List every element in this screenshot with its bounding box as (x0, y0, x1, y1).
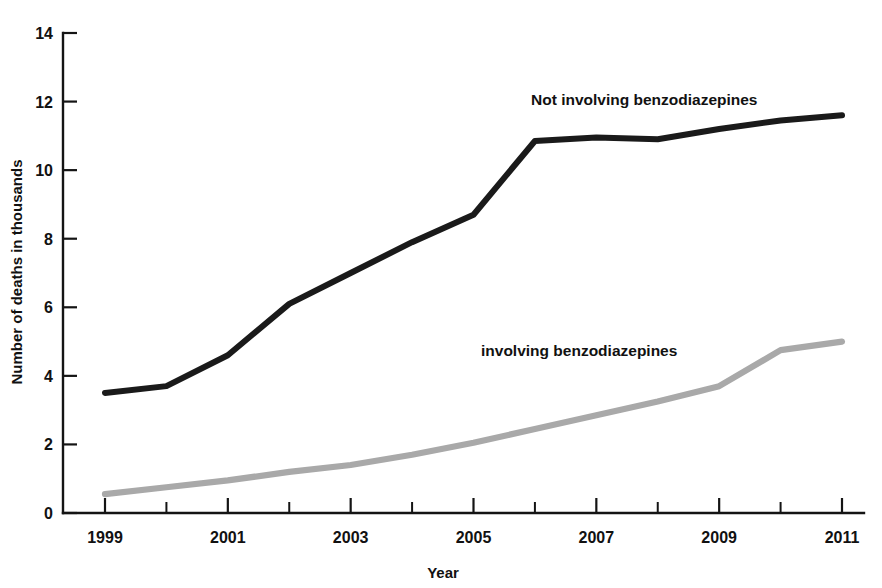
y-tick-label: 14 (35, 25, 53, 42)
x-tick-label: 2003 (333, 529, 369, 546)
series-line-not-involving-benzodiazepines (105, 115, 842, 393)
x-axis-title: Year (427, 564, 459, 581)
y-tick-label: 12 (35, 94, 53, 111)
chart-series-group (105, 115, 842, 494)
y-tick-label: 6 (44, 299, 53, 316)
y-tick-label: 4 (44, 368, 53, 385)
y-tick-label: 8 (44, 231, 53, 248)
y-tick-label: 2 (44, 436, 53, 453)
y-axis-title: Number of deaths in thousands (8, 159, 25, 384)
series-label-involving-benzodiazepines: involving benzodiazepines (481, 342, 677, 359)
x-axis-tick-labels: 1999200120032005200720092011 (87, 529, 859, 546)
line-chart-canvas: 02468101214 1999200120032005200720092011… (0, 0, 882, 588)
x-tick-label: 2007 (579, 529, 615, 546)
series-label-not-involving-benzodiazepines: Not involving benzodiazepines (531, 91, 758, 108)
x-tick-label: 2005 (456, 529, 492, 546)
x-tick-label: 1999 (87, 529, 123, 546)
x-tick-label: 2011 (825, 529, 860, 546)
y-axis-ticks (63, 33, 77, 513)
chart-figure: 02468101214 1999200120032005200720092011… (0, 0, 882, 588)
x-tick-label: 2009 (701, 529, 737, 546)
y-tick-label: 10 (35, 162, 53, 179)
y-tick-label: 0 (44, 505, 53, 522)
x-tick-label: 2001 (210, 529, 246, 546)
y-axis-tick-labels: 02468101214 (35, 25, 53, 522)
x-axis-ticks (105, 498, 842, 513)
